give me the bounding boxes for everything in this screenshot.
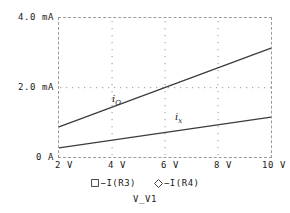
chart-legend: −I(R3) −I(R4) bbox=[0, 178, 290, 189]
annotation-i-x-sub: x bbox=[178, 117, 182, 125]
plot-area-frame bbox=[58, 17, 272, 158]
y-tick-label: 4.0 mA bbox=[2, 13, 54, 22]
x-tick-label: 4 V bbox=[108, 161, 126, 170]
x-tick-label: 6 V bbox=[161, 161, 179, 170]
legend-label-r4: −I(R4) bbox=[164, 178, 200, 189]
annotation-i-o: iO bbox=[112, 94, 121, 108]
legend-entry-r4[interactable]: −I(R4) bbox=[154, 178, 200, 189]
y-tick-label: 2.0 mA bbox=[2, 83, 54, 92]
x-tick-label: 8 V bbox=[214, 161, 232, 170]
annotation-i-o-sub: O bbox=[115, 99, 121, 107]
chart-root: 4.0 mA 2.0 mA 0 A bbox=[0, 0, 290, 213]
legend-entry-r3[interactable]: −I(R3) bbox=[91, 178, 137, 189]
x-tick-label: 10 V bbox=[262, 161, 286, 170]
x-axis-title: V_V1 bbox=[0, 194, 290, 204]
diamond-marker-icon bbox=[154, 179, 162, 187]
square-marker-icon bbox=[91, 179, 99, 187]
x-tick-label: 2 V bbox=[55, 161, 73, 170]
x-axis-labels: 2 V 4 V 6 V 8 V 10 V bbox=[0, 161, 290, 175]
legend-label-r3: −I(R3) bbox=[101, 178, 137, 189]
annotation-i-x: ix bbox=[175, 112, 182, 126]
